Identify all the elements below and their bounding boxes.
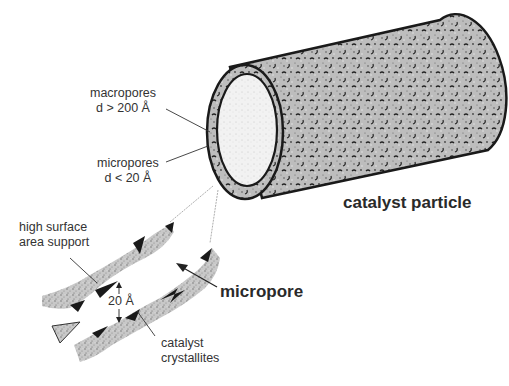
crystallites-label-line1: catalyst <box>161 336 219 351</box>
support-label-line1: high surface <box>19 220 89 235</box>
macropores-leader <box>166 109 210 132</box>
zoom-line-1 <box>170 186 213 222</box>
support-fragment <box>52 322 80 343</box>
macropores-label-line2: d > 200 Å <box>90 101 156 116</box>
catalyst-particle-label: catalyst particle <box>343 193 472 213</box>
catalyst-particle-cylinder <box>207 14 506 199</box>
macropores-label-line1: macropores <box>90 86 156 101</box>
crystallites-label-line2: crystallites <box>161 351 219 366</box>
crystallites-label: catalyst crystallites <box>161 336 219 366</box>
gap-label: 20 Å <box>107 294 135 309</box>
support-label-line2: area support <box>19 235 89 250</box>
micropores-label-line1: micropores <box>97 156 159 171</box>
micropores-label: micropores d < 20 Å <box>97 156 159 186</box>
micropores-label-line2: d < 20 Å <box>97 171 159 186</box>
micropores-leader <box>166 146 208 162</box>
macropores-label: macropores d > 200 Å <box>90 86 156 116</box>
support-label: high surface area support <box>19 220 89 250</box>
gap-label-text: 20 Å <box>108 294 134 308</box>
micropore-label: micropore <box>220 282 303 302</box>
zoom-line-2 <box>210 190 218 243</box>
